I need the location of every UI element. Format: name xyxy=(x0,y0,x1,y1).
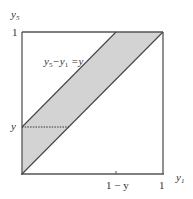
equation-label: y5−y1 =y xyxy=(43,55,83,69)
y1-axis-label: y1 xyxy=(175,171,184,185)
line-y5-equals-y1 xyxy=(22,32,163,174)
tick-label-x-1: 1 xyxy=(159,179,165,191)
y5-axis-label: y5 xyxy=(10,8,20,22)
tick-label-y: y xyxy=(10,120,16,132)
tick-label-1-minus-y: 1 − y xyxy=(106,179,129,191)
tick-label-y-1: 1 xyxy=(12,26,18,38)
region-diagram: y5 1 y 1 − y 1 y1 y5−y1 =y xyxy=(0,0,193,199)
